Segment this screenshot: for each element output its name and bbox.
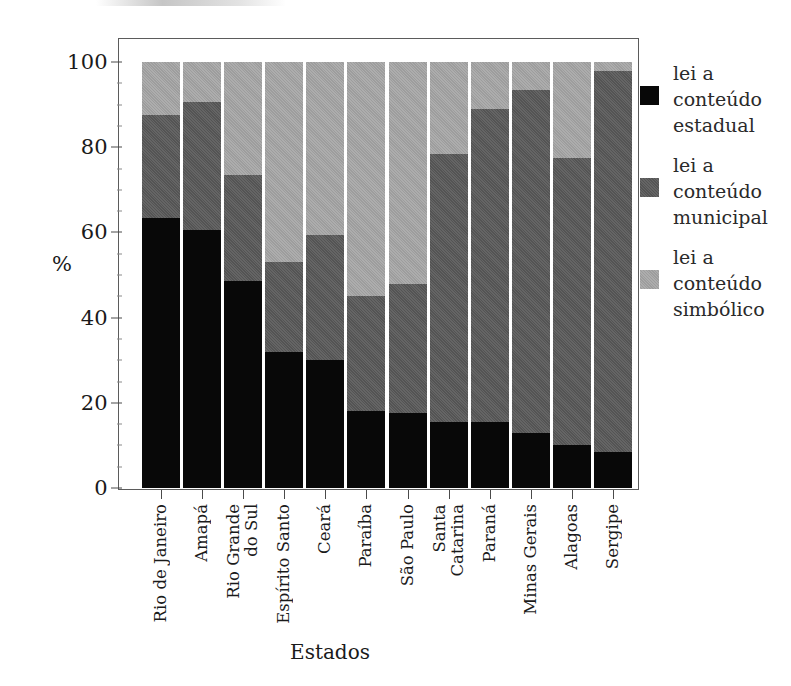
y-tick-label: 100 — [67, 50, 108, 74]
x-tick-mark — [366, 490, 367, 499]
legend-item-label: lei aconteúdosimbólico — [673, 244, 790, 322]
bar-segment-simbolico — [224, 62, 262, 175]
x-tick-label-line1: Rio Grande — [224, 504, 243, 599]
bar-segment-estadual — [224, 281, 262, 488]
legend-item-municipal[interactable]: lei aconteúdomunicipal — [640, 152, 790, 230]
y-tick-mark — [111, 62, 122, 63]
bar-segment-simbolico — [306, 62, 344, 235]
x-tick-label: Paraíba — [357, 504, 375, 568]
legend-item-label: lei aconteúdomunicipal — [673, 152, 790, 230]
x-tick-label: Ceará — [316, 504, 334, 554]
x-tick-label-line1: Espírito Santo — [274, 504, 293, 624]
legend-label-line3: municipal — [673, 204, 790, 230]
y-tick-minor — [117, 189, 122, 190]
y-tick-label: 80 — [81, 135, 108, 159]
y-axis-title: % — [52, 252, 72, 276]
x-tick-mark — [243, 490, 244, 499]
y-tick-minor — [117, 296, 122, 297]
bar-segment-municipal — [306, 235, 344, 361]
y-tick-minor — [117, 360, 122, 361]
legend-label-line1: lei a — [673, 60, 790, 86]
bar-segment-estadual — [389, 413, 427, 488]
x-tick-label-line1: Rio de Janeiro — [151, 504, 170, 622]
y-tick-minor — [117, 424, 122, 425]
x-tick-label: Espírito Santo — [275, 504, 293, 624]
y-tick-mark — [111, 402, 122, 403]
bar-segment-estadual — [306, 360, 344, 488]
y-tick-mark — [111, 317, 122, 318]
bar-segment-simbolico — [265, 62, 303, 262]
x-tick-mark — [531, 490, 532, 499]
y-tick-label: 40 — [81, 306, 108, 330]
bar-segment-municipal — [389, 284, 427, 414]
y-tick-label: 0 — [94, 476, 108, 500]
bar-segment-municipal — [265, 262, 303, 351]
bar-segment-simbolico — [471, 62, 509, 109]
bar-segment-municipal — [471, 109, 509, 422]
bar-segment-simbolico — [430, 62, 468, 154]
chart-legend: lei aconteúdoestaduallei aconteúdomunici… — [640, 60, 790, 336]
bar-segment-municipal — [430, 154, 468, 422]
y-tick-label: 20 — [81, 391, 108, 415]
bar-segment-simbolico — [389, 62, 427, 284]
bar-segment-municipal — [512, 90, 550, 433]
bar-segment-simbolico — [553, 62, 591, 158]
legend-swatch-simbolico — [640, 270, 659, 289]
y-tick-minor — [117, 125, 122, 126]
bar-segment-estadual — [553, 445, 591, 488]
bar-segment-simbolico — [347, 62, 385, 296]
bar-segment-simbolico — [183, 62, 221, 102]
legend-swatch-estadual — [640, 86, 659, 105]
x-tick-label: Sergipe — [604, 504, 622, 569]
x-tick-mark — [490, 490, 491, 499]
x-tick-label: Rio de Janeiro — [152, 504, 170, 622]
x-axis: Rio de JaneiroAmapáRio Grandedo SulEspír… — [140, 490, 640, 640]
x-tick-label: SantaCatarina — [431, 504, 467, 577]
x-tick-label: Amapá — [193, 504, 211, 562]
bar-segment-municipal — [347, 296, 385, 411]
bar-segment-municipal — [183, 102, 221, 230]
legend-label-line1: lei a — [673, 152, 790, 178]
legend-swatch-municipal — [640, 178, 659, 197]
legend-label-line3: estadual — [673, 112, 790, 138]
x-tick-mark — [284, 490, 285, 499]
x-tick-label-line1: Sergipe — [603, 504, 622, 569]
bar-segment-municipal — [553, 158, 591, 446]
x-tick-label-line1: Paraíba — [356, 504, 375, 568]
x-tick-mark — [449, 490, 450, 499]
x-tick-label-line1: Amapá — [192, 504, 211, 562]
x-tick-label-line2: do Sul — [243, 504, 261, 599]
legend-item-simbolico[interactable]: lei aconteúdosimbólico — [640, 244, 790, 322]
x-tick-label: Rio Grandedo Sul — [225, 504, 261, 599]
y-tick-minor — [117, 168, 122, 169]
stacked-bar-chart-figure: 020406080100 % Rio de JaneiroAmapáRio Gr… — [0, 0, 791, 686]
bar-segment-simbolico — [594, 62, 632, 71]
y-tick-minor — [117, 211, 122, 212]
bar-segment-municipal — [224, 175, 262, 282]
x-axis-title: Estados — [0, 640, 660, 664]
y-tick-minor — [117, 466, 122, 467]
bar-segment-estadual — [430, 422, 468, 488]
x-tick-mark — [202, 490, 203, 499]
y-tick-mark — [111, 232, 122, 233]
plot-area — [140, 62, 634, 488]
bar-segment-estadual — [347, 411, 385, 488]
y-tick-label: 60 — [81, 220, 108, 244]
x-tick-mark — [408, 490, 409, 499]
bar-segment-simbolico — [142, 62, 180, 115]
legend-label-line2: conteúdo — [673, 178, 790, 204]
x-tick-label: Alagoas — [563, 504, 581, 570]
legend-item-estadual[interactable]: lei aconteúdoestadual — [640, 60, 790, 138]
bar-segment-estadual — [471, 422, 509, 488]
legend-label-line3: simbólico — [673, 296, 790, 322]
y-tick-minor — [117, 104, 122, 105]
legend-label-line2: conteúdo — [673, 270, 790, 296]
bar-segment-estadual — [265, 352, 303, 488]
x-tick-label-line1: Minas Gerais — [521, 504, 540, 615]
y-tick-minor — [117, 381, 122, 382]
y-tick-minor — [117, 445, 122, 446]
x-tick-mark — [572, 490, 573, 499]
x-tick-label-line1: Ceará — [315, 504, 334, 554]
y-tick-mark — [111, 147, 122, 148]
x-tick-mark — [325, 490, 326, 499]
